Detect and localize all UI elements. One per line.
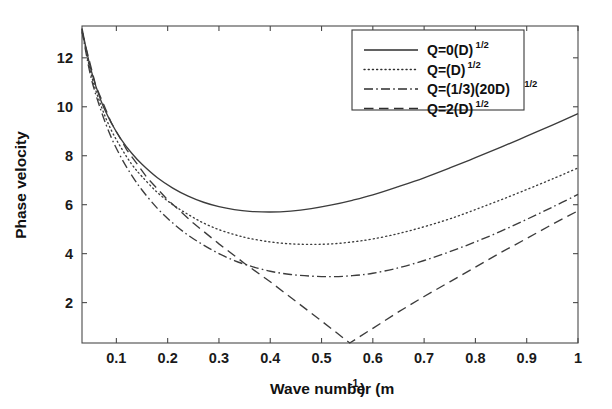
x-tick-label: 0.5	[311, 350, 331, 366]
x-axis-tick-labels: 0.10.20.30.40.50.60.70.80.91	[106, 350, 582, 366]
x-axis-title-base: Wave number (m	[270, 380, 394, 397]
y-axis-title: Phase velocity	[12, 131, 29, 239]
y-tick-label: 12	[57, 50, 73, 66]
x-tick-label: 0.6	[363, 350, 383, 366]
figure-container: 0.10.20.30.40.50.60.70.80.91 24681012 Ph…	[0, 0, 612, 409]
x-tick-label: 0.4	[260, 350, 280, 366]
x-tick-label: 1	[574, 350, 582, 366]
legend-label-2: Q=(1/3)(20D)	[427, 81, 510, 97]
y-tick-label: 2	[65, 295, 73, 311]
x-tick-label: 0.9	[517, 350, 537, 366]
x-axis-title-superscript: -1	[349, 377, 358, 389]
y-tick-label: 6	[65, 197, 73, 213]
x-axis-title: Wave number (m -1 )	[270, 377, 394, 397]
x-axis-title-tail: )	[360, 380, 365, 397]
x-tick-label: 0.7	[414, 350, 434, 366]
y-axis-tick-labels: 24681012	[57, 50, 73, 311]
y-tick-label: 10	[57, 99, 73, 115]
x-tick-label: 0.2	[158, 350, 178, 366]
x-tick-label: 0.8	[465, 350, 485, 366]
x-tick-label: 0.3	[209, 350, 229, 366]
phase-velocity-chart: 0.10.20.30.40.50.60.70.80.91 24681012 Ph…	[0, 0, 612, 409]
legend: Q=0(D)1/2Q=(D)1/2Q=(1/3)(20D)1/2Q=2(D)1/…	[352, 30, 537, 117]
legend-label-1: Q=(D)	[427, 62, 466, 78]
legend-superscript-2: 1/2	[524, 78, 537, 89]
legend-label-3: Q=2(D)	[427, 101, 473, 117]
x-tick-label: 0.1	[106, 350, 126, 366]
legend-label-0: Q=0(D)	[427, 42, 473, 58]
y-axis-title-text: Phase velocity	[12, 131, 29, 239]
y-tick-label: 4	[65, 246, 73, 262]
legend-superscript-0: 1/2	[476, 39, 489, 50]
y-tick-label: 8	[65, 148, 73, 164]
legend-superscript-1: 1/2	[468, 59, 481, 70]
legend-superscript-3: 1/2	[476, 98, 489, 109]
